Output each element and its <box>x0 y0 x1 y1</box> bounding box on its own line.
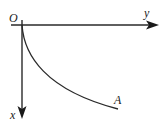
coordinate-diagram: O y x A <box>0 0 167 127</box>
point-a-label: A <box>113 93 122 107</box>
curve-OA <box>22 25 118 109</box>
origin-label: O <box>9 11 18 25</box>
y-axis <box>11 21 159 30</box>
x-axis-label: x <box>9 108 16 122</box>
y-axis-label: y <box>143 6 150 20</box>
x-axis <box>18 20 27 119</box>
